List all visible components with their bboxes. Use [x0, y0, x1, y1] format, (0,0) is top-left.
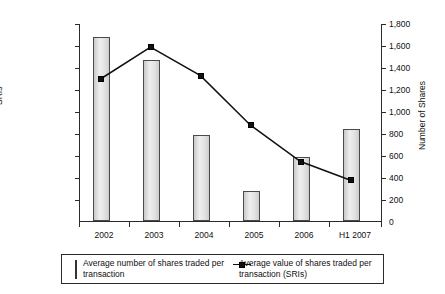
y-axis-right-tick-label: 1,600 — [389, 42, 410, 50]
axis-tick — [75, 134, 80, 135]
legend-label-bars: Average number of shares traded per tran… — [83, 258, 229, 280]
axis-tick — [381, 112, 386, 113]
x-axis-tick — [129, 222, 130, 227]
axis-tick — [75, 200, 80, 201]
axis-tick — [381, 134, 386, 135]
y-axis-right-tick-label: 400 — [389, 174, 403, 182]
axis-tick — [381, 178, 386, 179]
legend-label-line: Average value of shares traded per trans… — [239, 258, 383, 280]
axis-tick — [75, 90, 80, 91]
axis-tick — [75, 68, 80, 69]
x-axis-tick — [179, 222, 180, 227]
x-axis-tick — [381, 222, 382, 227]
y-axis-right-tick-label: 1,200 — [389, 86, 410, 94]
x-axis-tick — [329, 222, 330, 227]
axis-tick — [75, 112, 80, 113]
x-axis-label-2002: 2002 — [79, 230, 129, 240]
legend-entry-bars: Average number of shares traded per tran… — [75, 258, 229, 280]
y-axis-right-tick-label: 1,400 — [389, 64, 410, 72]
x-axis-tick — [79, 222, 80, 227]
y-axis-right-tick-label: 0 — [389, 218, 394, 226]
y-axis-left-title: SRIs — [0, 87, 4, 105]
y-axis-right-tick-label: 1,800 — [389, 20, 410, 28]
bar-2002 — [93, 37, 110, 221]
x-axis-tick — [229, 222, 230, 227]
plot-area — [79, 24, 382, 222]
legend-bar-swatch-icon — [75, 261, 77, 279]
axis-tick — [381, 46, 386, 47]
bar-h1-2007 — [343, 129, 360, 221]
axis-tick — [381, 90, 386, 91]
axis-tick — [75, 46, 80, 47]
line-marker-2004 — [198, 73, 204, 79]
x-axis-label-2005: 2005 — [229, 230, 279, 240]
axis-tick — [381, 200, 386, 201]
y-axis-right-tick-label: 600 — [389, 152, 403, 160]
axis-tick — [381, 68, 386, 69]
line-marker-2006 — [298, 159, 304, 165]
bar-2004 — [193, 135, 210, 221]
axis-tick — [75, 178, 80, 179]
axis-tick — [381, 24, 386, 25]
bar-2006 — [293, 157, 310, 221]
line-marker-2002 — [98, 76, 104, 82]
bar-2003 — [143, 60, 160, 221]
x-axis-tick — [279, 222, 280, 227]
chart-container: 180,000 160,000 140,000 120,000 100,000 … — [0, 0, 445, 294]
line-marker-2003 — [148, 44, 154, 50]
y-axis-right-tick-label: 800 — [389, 130, 403, 138]
y-axis-right-tick-label: 1,000 — [389, 108, 410, 116]
axis-tick — [75, 24, 80, 25]
line-marker-2005 — [248, 122, 254, 128]
x-axis-label-h1-2007: H1 2007 — [329, 230, 381, 240]
x-axis-label-2006: 2006 — [279, 230, 329, 240]
chart-title — [0, 0, 445, 8]
y-axis-right-tick-label: 200 — [389, 196, 403, 204]
chart-legend: Average number of shares traded per tran… — [61, 254, 384, 284]
bar-2005 — [243, 191, 260, 221]
x-axis-label-2004: 2004 — [179, 230, 229, 240]
axis-tick — [381, 156, 386, 157]
legend-entry-line: Average value of shares traded per trans… — [233, 258, 383, 280]
y-axis-right-title: Number of Shares — [417, 81, 427, 150]
axis-tick — [75, 156, 80, 157]
x-axis-label-2003: 2003 — [129, 230, 179, 240]
line-marker-h1-2007 — [348, 177, 354, 183]
